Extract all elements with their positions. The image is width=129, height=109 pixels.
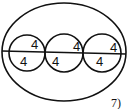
- label-right-bottom: 4: [96, 54, 103, 69]
- label-left-bottom: 4: [20, 54, 27, 69]
- label-right-top: 4: [110, 40, 117, 55]
- geometry-figure: 4 4 4 4 4 4 7): [0, 0, 129, 109]
- figure-number: 7): [111, 96, 121, 109]
- label-left-top: 4: [31, 37, 38, 52]
- label-middle-bottom: 4: [52, 54, 59, 69]
- label-middle-top: 4: [73, 39, 80, 54]
